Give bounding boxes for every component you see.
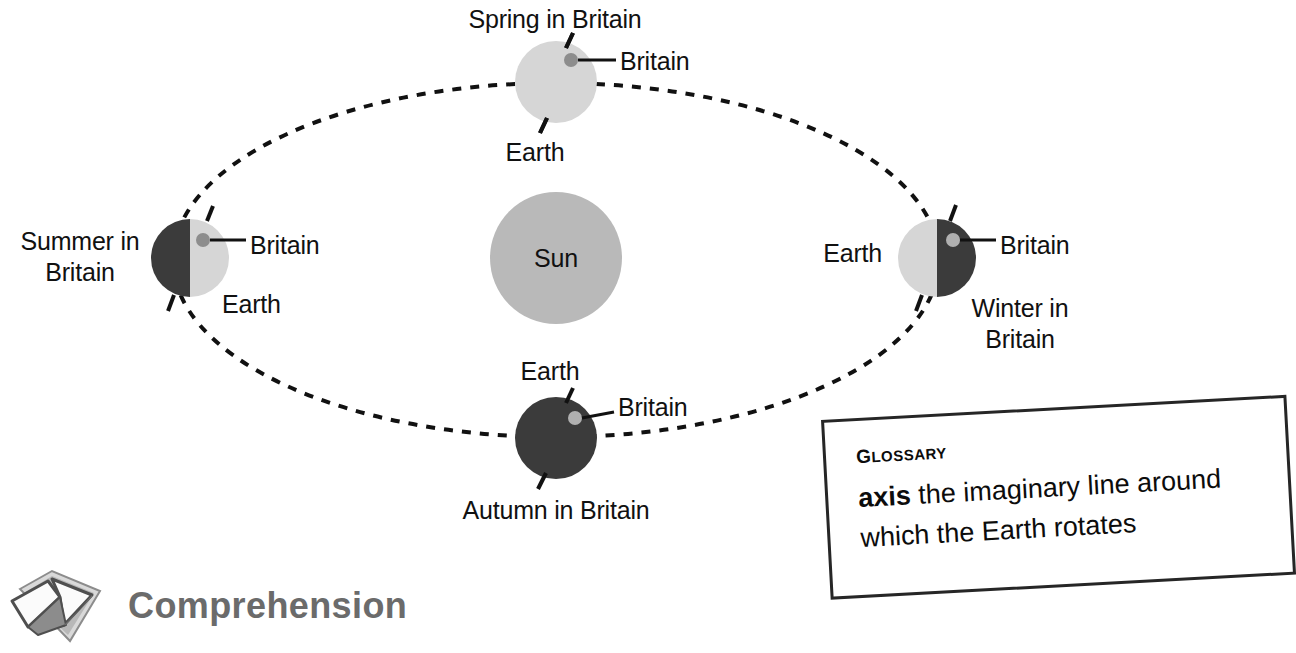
label-autumn-earth: Earth [470, 356, 630, 387]
comprehension-label: Comprehension [128, 585, 407, 627]
earth-autumn-body [515, 397, 597, 479]
label-autumn-season: Autumn in Britain [406, 495, 706, 526]
label-winter-britain: Britain [1000, 230, 1069, 261]
britain-dot-spring [564, 53, 578, 67]
label-spring-season: Spring in Britain [405, 4, 705, 35]
earth-winter-dark-half [937, 215, 985, 305]
label-spring-britain: Britain [620, 46, 689, 77]
axis-tick-winter-top [950, 205, 956, 221]
earth-spring-body [515, 41, 597, 123]
axis-tick-winter-bottom [916, 295, 922, 311]
comprehension-section: Comprehension [8, 563, 407, 649]
earth-summer-dark-half [145, 215, 190, 305]
label-summer-earth: Earth [222, 289, 281, 320]
label-summer-britain: Britain [250, 230, 319, 261]
glossary-term: axis [857, 480, 911, 513]
label-spring-earth: Earth [455, 137, 615, 168]
axis-tick-summer-top [207, 206, 213, 221]
glossary-card: Glossary axis the imaginary line around … [821, 395, 1296, 600]
open-book-icon [8, 563, 112, 649]
earth-winter-light-half [893, 215, 937, 305]
label-winter-earth: Earth [700, 238, 882, 269]
label-sun: Sun [496, 243, 616, 274]
glossary-definition: the imaginary line around which the Eart… [860, 463, 1222, 553]
label-winter-season-line2: Britain [945, 324, 1095, 355]
britain-dot-autumn [568, 411, 582, 425]
label-summer-season-line2: Britain [10, 257, 150, 288]
label-autumn-britain: Britain [618, 392, 687, 423]
diagram-page: Spring in Britain Britain Earth Summer i… [0, 0, 1296, 653]
label-winter-season-line1: Winter in [945, 293, 1095, 324]
britain-dot-winter [946, 233, 960, 247]
glossary-entry: axis the imaginary line around which the… [857, 455, 1281, 558]
britain-dot-summer [196, 233, 210, 247]
label-summer-season-line1: Summer in [10, 226, 150, 257]
axis-tick-summer-bottom [168, 295, 174, 311]
